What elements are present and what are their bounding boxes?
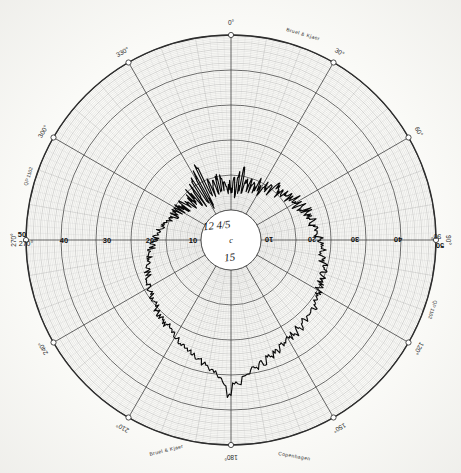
angle-tick-label: 0° — [228, 19, 235, 26]
annotation-center-top: 12 4/5 — [202, 218, 231, 232]
polar-chart-svg: 0°30°60°90°120°150°180°210°240°270°300°3… — [0, 0, 461, 473]
radial-label-left-50: 50 — [18, 230, 26, 239]
angle-tick-label: 90° — [445, 235, 452, 245]
axis-origin-angle-right: 90° — [431, 233, 442, 240]
radial-label-right-40: 40 — [394, 235, 402, 244]
annotation-center-bottom: 15 — [223, 250, 236, 263]
angle-tick-marker — [228, 442, 233, 447]
radial-label-left-40: 40 — [60, 236, 68, 245]
angle-tick-marker — [51, 135, 56, 140]
radial-label-left-30: 30 — [103, 236, 111, 245]
angle-tick-label: 180° — [224, 454, 238, 461]
radial-label-right-30: 30 — [351, 235, 359, 244]
angle-tick-label: 270° — [10, 233, 17, 247]
axis-origin-angle-left: 270° — [19, 240, 34, 247]
angle-tick-marker — [126, 415, 131, 420]
polar-chart-root: 0°30°60°90°120°150°180°210°240°270°300°3… — [0, 0, 461, 473]
angle-tick-marker — [51, 340, 56, 345]
angle-tick-marker — [406, 135, 411, 140]
angle-tick-marker — [331, 415, 336, 420]
radial-label-left-10: 10 — [189, 236, 197, 245]
annotation-center-mid: c — [229, 236, 233, 245]
angle-tick-marker — [228, 32, 233, 37]
radial-label-right-50: 50 — [436, 241, 444, 250]
angle-tick-marker — [406, 340, 411, 345]
angle-tick-marker — [331, 60, 336, 65]
radial-label-right-10: 10 — [265, 235, 273, 244]
radial-label-left-20: 20 — [146, 236, 154, 245]
angle-tick-marker — [126, 60, 131, 65]
radial-label-right-20: 20 — [308, 235, 316, 244]
